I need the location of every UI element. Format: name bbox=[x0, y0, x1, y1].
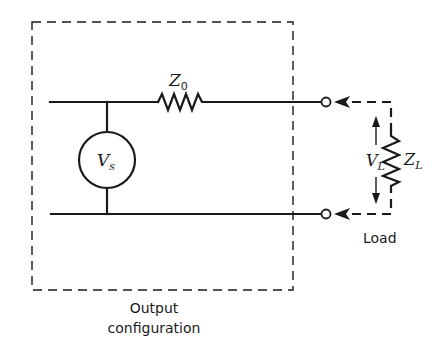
load-impedance-resistor bbox=[383, 130, 399, 190]
vl-arrow-down-icon bbox=[372, 193, 380, 204]
load-connection-top bbox=[352, 102, 391, 130]
arrowhead-bottom-icon bbox=[334, 208, 350, 220]
caption-line-2: configuration bbox=[108, 320, 201, 336]
circuit-diagram: Z0 Vs VL ZL Load Output configuration bbox=[0, 0, 443, 349]
load-connection-bottom bbox=[352, 190, 391, 214]
vs-label: Vs bbox=[97, 150, 115, 173]
vl-arrow-up-icon bbox=[372, 116, 380, 127]
arrowhead-top-icon bbox=[334, 96, 350, 108]
z0-label: Z0 bbox=[168, 70, 188, 93]
vl-label: VL bbox=[366, 151, 385, 173]
source-impedance-resistor bbox=[158, 94, 205, 110]
load-label: Load bbox=[363, 230, 397, 246]
caption-line-1: Output bbox=[130, 300, 179, 316]
zl-label: ZL bbox=[403, 150, 422, 172]
output-configuration-box bbox=[32, 22, 293, 290]
terminal-top bbox=[322, 98, 331, 107]
terminal-bottom bbox=[322, 210, 331, 219]
